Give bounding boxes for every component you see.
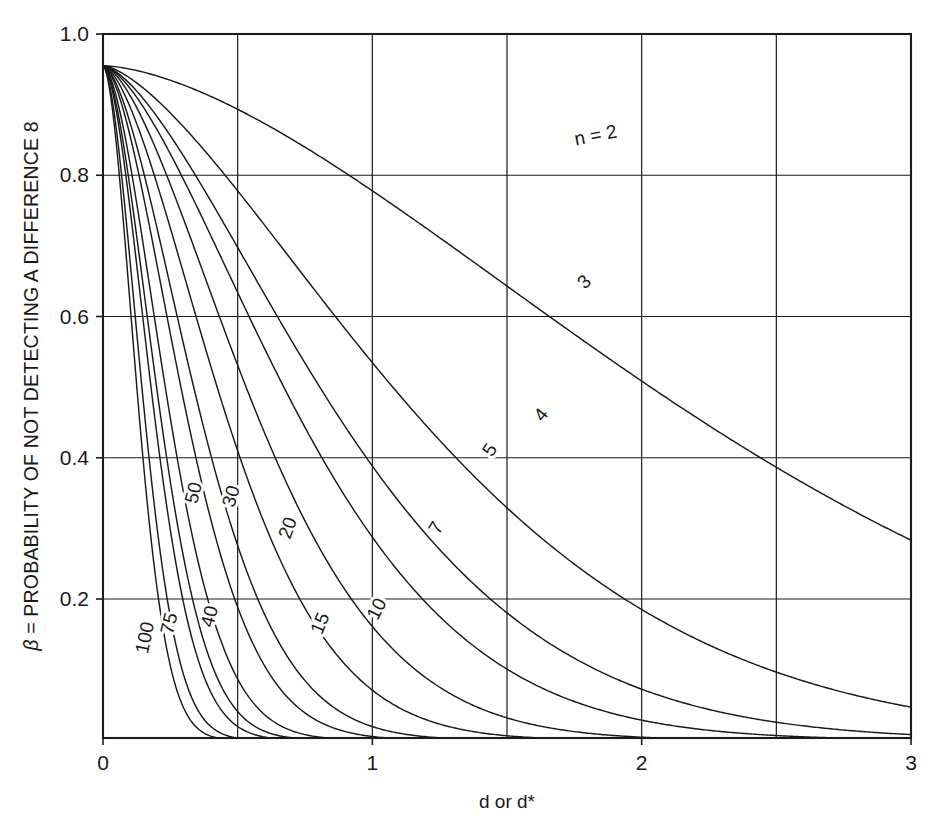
curve-label-text: 4 <box>529 404 552 426</box>
y-tick-label: 0.4 <box>60 446 90 469</box>
curve-label-2: n = 2n = 2 <box>573 121 619 150</box>
curve-label-text: 30 <box>218 483 244 509</box>
curve-label-40: 4040 <box>196 603 222 629</box>
curve-label-text: 15 <box>306 609 334 637</box>
curve-label-20: 2020 <box>274 514 301 541</box>
x-tick-labels: 0123 <box>97 738 917 774</box>
y-tick-label: 0.6 <box>60 305 89 328</box>
curve-label-text: 5 <box>478 440 501 461</box>
y-tick-label: 1.0 <box>60 22 89 45</box>
curve-label-100: 100100 <box>131 620 158 655</box>
oc-curve-figure: n = 2n = 2334455771010151520203030404050… <box>0 0 940 820</box>
x-tick-label: 0 <box>97 751 109 774</box>
x-tick-label: 1 <box>366 751 378 774</box>
x-axis-title-text: d or d* <box>479 791 536 812</box>
curve-label-text: 3 <box>573 270 595 292</box>
y-axis-title-rest: = PROBABILITY OF NOT DETECTING A DIFFERE… <box>20 121 42 639</box>
curve-label-7: 77 <box>424 518 447 538</box>
curve-label-text: 7 <box>424 518 447 538</box>
y-axis-title-text: β = PROBABILITY OF NOT DETECTING A DIFFE… <box>20 121 42 652</box>
x-tick-label: 3 <box>905 751 917 774</box>
y-tick-label: 0.8 <box>60 163 89 186</box>
curve-n-7 <box>103 66 661 738</box>
curve-n-5 <box>103 66 840 738</box>
curve-label-text: 75 <box>156 611 181 636</box>
y-tick-labels: 0.20.40.60.81.0 <box>60 22 103 610</box>
curve-label-text: n = 2 <box>573 121 619 150</box>
y-axis-title: β = PROBABILITY OF NOT DETECTING A DIFFE… <box>20 121 42 652</box>
chart-svg: n = 2n = 2334455771010151520203030404050… <box>0 0 940 820</box>
curve-label-5: 55 <box>478 440 501 461</box>
curve-label-text: 40 <box>196 603 222 629</box>
curve-label-30: 3030 <box>218 483 244 509</box>
curve-n-50 <box>103 66 272 738</box>
beta-symbol: β <box>20 639 42 651</box>
curve-label-text: 20 <box>274 514 301 541</box>
y-tick-label: 0.2 <box>60 587 89 610</box>
curve-label-75: 7575 <box>156 611 181 636</box>
curve-label-text: 100 <box>131 620 158 655</box>
curve-n-40 <box>103 66 293 738</box>
curve-label-3: 33 <box>573 270 595 292</box>
x-tick-label: 2 <box>636 751 648 774</box>
curve-label-15: 1515 <box>306 609 334 637</box>
curve-labels-group: n = 2n = 2334455771010151520203030404050… <box>131 121 619 656</box>
curve-label-4: 44 <box>529 404 552 426</box>
x-axis-title: d or d* <box>479 791 536 812</box>
curve-n-10 <box>103 66 542 738</box>
